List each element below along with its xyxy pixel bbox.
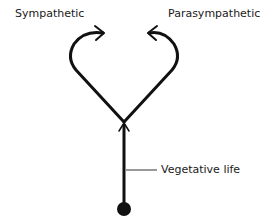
origin-dot	[117, 202, 131, 216]
sympathetic-branch	[70, 32, 124, 122]
parasympathetic-branch	[124, 32, 178, 122]
parasympathetic-label: Parasympathetic	[168, 8, 260, 19]
vegetative-life-label: Vegetative life	[161, 164, 240, 175]
sympathetic-label: Sympathetic	[15, 8, 84, 19]
branching-diagram	[0, 0, 260, 220]
